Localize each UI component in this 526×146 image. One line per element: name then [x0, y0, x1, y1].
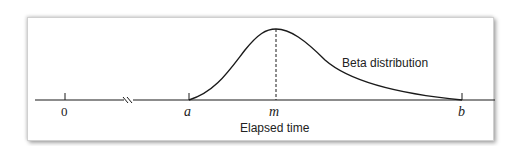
tick-label-0: 0: [61, 104, 68, 120]
tick-label-m: m: [269, 104, 279, 120]
tick-label-b: b: [458, 104, 465, 120]
tick-label-a: a: [184, 104, 191, 120]
axis-break-icon: [123, 96, 133, 104]
curve-label: Beta distribution: [342, 56, 428, 70]
x-axis-label: Elapsed time: [240, 121, 309, 135]
